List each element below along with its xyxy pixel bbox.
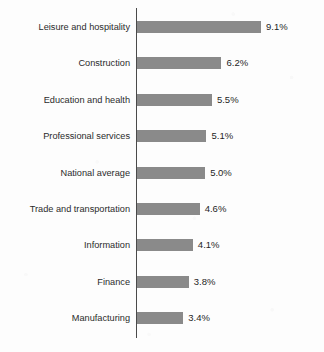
bar — [137, 94, 212, 106]
bar-row: National average5.0% — [0, 167, 324, 179]
category-label: National average — [4, 165, 130, 181]
category-label: Construction — [4, 55, 130, 71]
bar-value-label: 6.2% — [226, 55, 248, 71]
category-label: Education and health — [4, 92, 130, 108]
plot-area: Leisure and hospitality9.1%Construction6… — [0, 0, 324, 352]
bar-value-label: 4.6% — [205, 201, 227, 217]
bar — [137, 203, 200, 215]
category-label: Professional services — [4, 128, 130, 144]
category-label: Trade and transportation — [4, 201, 130, 217]
bar-row: Manufacturing3.4% — [0, 312, 324, 324]
bar — [137, 57, 221, 69]
bar — [137, 130, 206, 142]
bar-value-label: 9.1% — [266, 19, 288, 35]
bar-value-label: 4.1% — [198, 237, 220, 253]
bar-value-label: 5.1% — [211, 128, 233, 144]
bar-chart: Leisure and hospitality9.1%Construction6… — [0, 0, 324, 352]
category-label: Manufacturing — [4, 310, 130, 326]
bar-row: Finance3.8% — [0, 276, 324, 288]
bar — [137, 276, 189, 288]
bar-value-label: 3.4% — [188, 310, 210, 326]
bar-row: Construction6.2% — [0, 57, 324, 69]
bar — [137, 167, 205, 179]
category-label: Finance — [4, 274, 130, 290]
bar-value-label: 5.0% — [210, 165, 232, 181]
bar — [137, 239, 193, 251]
bar-row: Education and health5.5% — [0, 94, 324, 106]
bar-row: Leisure and hospitality9.1% — [0, 21, 324, 33]
category-label: Information — [4, 237, 130, 253]
category-label: Leisure and hospitality — [4, 19, 130, 35]
bar — [137, 312, 183, 324]
bar-row: Trade and transportation4.6% — [0, 203, 324, 215]
bar-value-label: 3.8% — [194, 274, 216, 290]
bar-value-label: 5.5% — [217, 92, 239, 108]
bar-row: Professional services5.1% — [0, 130, 324, 142]
bar-row: Information4.1% — [0, 239, 324, 251]
bar — [137, 21, 261, 33]
